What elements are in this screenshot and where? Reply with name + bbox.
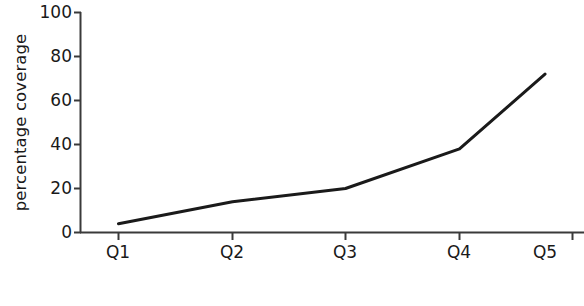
line-chart-figure: percentage coverage 100 80 60 40 20 0 Q1… — [0, 0, 584, 306]
plot-area — [0, 0, 584, 306]
data-series-line — [119, 74, 546, 224]
